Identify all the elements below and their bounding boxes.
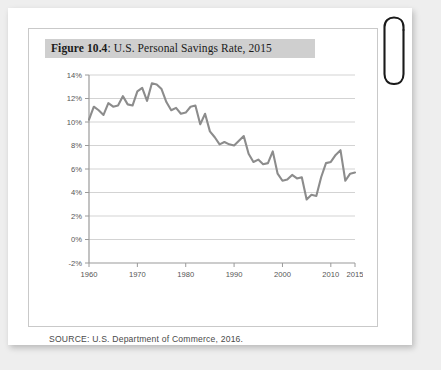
svg-text:8%: 8%: [71, 141, 82, 150]
svg-text:1990: 1990: [226, 270, 243, 279]
savings-rate-line-chart: 14%12%10%8%6%4%2%0%-2% 19601970198019902…: [43, 67, 363, 295]
figure-box: Figure 10.4: U.S. Personal Savings Rate,…: [28, 28, 378, 327]
page-card: Figure 10.4: U.S. Personal Savings Rate,…: [8, 8, 412, 345]
svg-text:6%: 6%: [71, 165, 82, 174]
figure-title-banner: Figure 10.4: U.S. Personal Savings Rate,…: [45, 39, 315, 58]
svg-text:2000: 2000: [274, 270, 291, 279]
svg-text:12%: 12%: [67, 94, 82, 103]
svg-text:1960: 1960: [81, 270, 98, 279]
x-axis-tick-marks: [89, 263, 355, 267]
chart-plot-area: 14%12%10%8%6%4%2%0%-2% 19601970198019902…: [43, 67, 363, 295]
data-series-line: [89, 83, 355, 199]
y-axis-tick-labels: 14%12%10%8%6%4%2%0%-2%: [67, 71, 82, 268]
svg-text:0%: 0%: [71, 235, 82, 244]
svg-text:14%: 14%: [67, 71, 82, 80]
grid-lines: [89, 75, 355, 240]
source-note: SOURCE: U.S. Department of Commerce, 201…: [49, 334, 243, 344]
svg-text:4%: 4%: [71, 188, 82, 197]
svg-text:10%: 10%: [67, 118, 82, 127]
paperclip-icon: [381, 14, 407, 88]
svg-text:2010: 2010: [322, 270, 339, 279]
x-axis-tick-labels: 1960197019801990200020102015: [81, 270, 363, 279]
svg-text:2%: 2%: [71, 212, 82, 221]
figure-number: Figure 10.4: [51, 42, 107, 54]
svg-text:2015: 2015: [347, 270, 363, 279]
svg-text:1980: 1980: [177, 270, 194, 279]
svg-text:-2%: -2%: [68, 259, 82, 268]
figure-title-text: U.S. Personal Savings Rate, 2015: [114, 42, 272, 54]
svg-text:1970: 1970: [129, 270, 146, 279]
